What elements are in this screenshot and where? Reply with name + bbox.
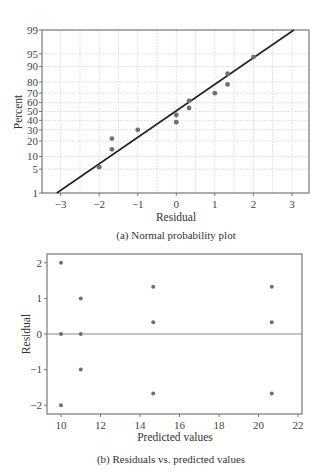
data-point <box>187 98 192 103</box>
x-tick-label: 0 <box>174 198 180 210</box>
y-tick-label: 10 <box>27 150 39 162</box>
x-tick-label: 12 <box>95 419 106 431</box>
data-point <box>251 55 256 60</box>
data-point <box>59 332 63 336</box>
plot-b-x-ticks: 10121416182022 <box>56 414 304 431</box>
x-tick-label: −1 <box>132 198 144 210</box>
x-tick-label: −2 <box>93 198 105 210</box>
x-tick-label: 22 <box>293 419 304 431</box>
y-tick-label: −1 <box>30 363 42 375</box>
data-point <box>79 368 83 372</box>
x-tick-label: −3 <box>55 198 67 210</box>
plot-a-y-ticks: 151020304050607080909599 <box>27 24 42 199</box>
x-tick-label: 14 <box>135 419 147 431</box>
data-point <box>135 127 140 132</box>
y-tick-label: −2 <box>30 399 42 411</box>
y-tick-label: 80 <box>27 76 39 88</box>
data-point <box>270 320 274 324</box>
y-tick-label: 90 <box>27 60 39 72</box>
x-tick-label: 20 <box>253 419 265 431</box>
data-point <box>270 285 274 289</box>
y-tick-label: 99 <box>27 24 39 36</box>
y-tick-label: 1 <box>33 187 39 199</box>
data-point <box>225 82 230 87</box>
plot-b-y-ticks: −2−1012 <box>30 257 47 411</box>
y-tick-label: 5 <box>33 163 39 175</box>
plot-b-caption: (b) Residuals vs. predicted values <box>97 453 245 466</box>
x-tick-label: 1 <box>212 198 218 210</box>
residuals-vs-predicted-plot: −2−1012 10121416182022 Predicted values … <box>20 254 304 466</box>
plot-b-y-axis-label: Residual <box>20 314 32 354</box>
data-point <box>97 165 102 170</box>
data-point <box>225 71 230 76</box>
plot-a-x-ticks: −3−2−10123 <box>55 193 295 210</box>
data-point <box>187 106 192 111</box>
y-tick-label: 2 <box>37 257 43 269</box>
data-point <box>59 261 63 265</box>
figure: 151020304050607080909599 −3−2−10123 Resi… <box>0 0 321 473</box>
data-point <box>151 285 155 289</box>
data-point <box>212 91 217 96</box>
y-tick-label: 1 <box>37 292 43 304</box>
data-point <box>59 403 63 407</box>
plot-a-caption: (a) Normal probability plot <box>116 229 235 242</box>
data-point <box>151 320 155 324</box>
data-point <box>110 136 115 141</box>
x-tick-label: 18 <box>214 419 226 431</box>
data-point <box>270 391 274 395</box>
data-point <box>151 391 155 395</box>
y-tick-label: 20 <box>27 135 39 147</box>
normal-probability-plot: 151020304050607080909599 −3−2−10123 Resi… <box>12 24 309 242</box>
data-point <box>79 332 83 336</box>
plot-a-y-axis-label: Percent <box>12 94 24 129</box>
x-tick-label: 10 <box>56 419 68 431</box>
y-tick-label: 95 <box>27 48 39 60</box>
data-point <box>174 113 179 118</box>
data-point <box>174 120 179 125</box>
data-point <box>79 296 83 300</box>
plot-a-x-axis-label: Residual <box>156 211 196 223</box>
x-tick-label: 3 <box>289 198 295 210</box>
x-tick-label: 2 <box>251 198 257 210</box>
y-tick-label: 70 <box>27 87 39 99</box>
plot-b-x-axis-label: Predicted values <box>137 431 213 443</box>
y-tick-label: 0 <box>37 328 43 340</box>
data-point <box>110 147 115 152</box>
x-tick-label: 16 <box>174 419 186 431</box>
